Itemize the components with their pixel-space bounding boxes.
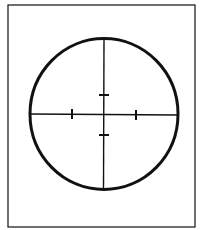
reticle-svg: [0, 0, 200, 230]
crosshair-vertical-line: [104, 39, 105, 190]
reticle-diagram: [0, 0, 200, 230]
